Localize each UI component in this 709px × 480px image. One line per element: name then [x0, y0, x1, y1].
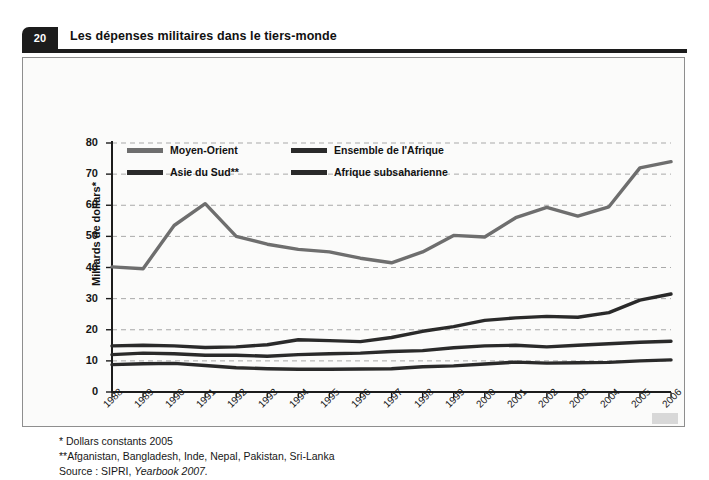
figure-header: 20 Les dépenses militaires dans le tiers…: [22, 27, 687, 53]
chart-frame: 01020304050607080 1988198919901991199219…: [22, 57, 685, 427]
legend-item-moyen-orient: Moyen-Orient: [127, 144, 238, 156]
legend-item-asie-du-sud: Asie du Sud**: [127, 166, 239, 178]
figure-title: Les dépenses militaires dans le tiers-mo…: [70, 29, 337, 43]
legend-item-ensemble-afrique: Ensemble de l'Afrique: [291, 144, 444, 156]
y-tick-label: 10: [64, 354, 98, 366]
chart-legend: Moyen-Orient Asie du Sud** Ensemble de l…: [127, 144, 457, 182]
y-axis-label: Milliards de dollars*: [90, 139, 102, 329]
corner-tab: [652, 413, 678, 424]
legend-swatch-asie-du-sud: [127, 170, 163, 175]
y-tick-label: 0: [64, 385, 98, 397]
legend-swatch-moyen-orient: [127, 148, 163, 153]
legend-swatch-ensemble-afrique: [291, 148, 327, 153]
series-line-asie-du-sud: [112, 341, 671, 356]
legend-swatch-afrique-subsaharienne: [291, 170, 327, 175]
legend-label-afrique-subsaharienne: Afrique subsaharienne: [334, 166, 448, 178]
header-rule: [22, 49, 687, 53]
source-prefix: Source : SIPRI,: [59, 465, 134, 477]
note-dollars-constants: * Dollars constants 2005: [59, 435, 559, 447]
data-series-group: [112, 162, 671, 370]
series-line-ensemble-de-l-afrique: [112, 294, 671, 348]
legend-label-moyen-orient: Moyen-Orient: [170, 144, 238, 156]
note-source: Source : SIPRI, Yearbook 2007.: [59, 465, 559, 477]
note-asie-du-sud-countries: **Afganistan, Bangladesh, Inde, Nepal, P…: [59, 450, 559, 462]
legend-label-ensemble-afrique: Ensemble de l'Afrique: [334, 144, 444, 156]
figure-number-badge: 20: [22, 27, 58, 49]
legend-label-asie-du-sud: Asie du Sud**: [170, 166, 239, 178]
line-chart: [23, 58, 684, 426]
legend-item-afrique-subsaharienne: Afrique subsaharienne: [291, 166, 448, 178]
figure-notes: * Dollars constants 2005 **Afganistan, B…: [59, 435, 559, 480]
source-title: Yearbook 2007.: [134, 465, 208, 477]
